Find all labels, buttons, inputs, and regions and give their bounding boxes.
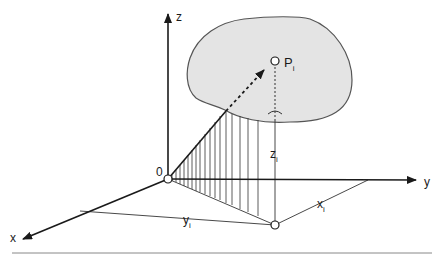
x-axis — [23, 179, 168, 239]
origin-label: 0 — [156, 165, 163, 179]
xi-label: xi — [317, 197, 325, 214]
projected-point — [271, 221, 279, 229]
yi-dimension-line — [80, 211, 275, 225]
z-axis-label: z — [176, 10, 182, 24]
ray-solid — [168, 111, 226, 179]
x-axis-label: x — [10, 231, 16, 245]
zi-label: zi — [270, 147, 278, 164]
y-axis — [168, 179, 416, 180]
origin-point — [164, 175, 172, 183]
point-p — [271, 57, 279, 65]
yi-label: yi — [183, 213, 191, 230]
coordinate-diagram: z y x 0 Pi zi yi xi — [0, 0, 440, 266]
surface-region — [187, 17, 352, 123]
y-axis-label: y — [424, 175, 430, 189]
hatch-lines — [172, 112, 258, 216]
